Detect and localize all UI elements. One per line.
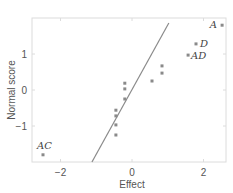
x-tick-label: 2 (201, 167, 207, 178)
data-point (161, 72, 164, 75)
normal-probability-plot: −2 0 2 Effect 1 0 −1 Normal score A D AD… (0, 0, 233, 193)
label-AD: AD (190, 50, 206, 61)
data-point (123, 82, 126, 85)
x-tick-label: −2 (55, 167, 67, 178)
data-point-AC (42, 153, 45, 156)
y-tick-label: 1 (21, 49, 27, 60)
label-D: D (199, 38, 208, 49)
y-tick-label: 0 (21, 85, 27, 96)
data-point-D (195, 42, 198, 45)
reference-line (92, 23, 169, 162)
x-axis: −2 0 2 Effect (55, 18, 207, 190)
y-axis-title: Normal score (6, 60, 17, 120)
data-point (123, 87, 126, 90)
data-point (114, 114, 117, 117)
label-AC: AC (36, 140, 52, 151)
data-point-AD (187, 54, 190, 57)
data-points (42, 24, 224, 157)
data-point (161, 64, 164, 67)
data-point (114, 134, 117, 137)
label-A: A (209, 19, 217, 30)
x-tick-label: 0 (129, 167, 135, 178)
data-point (123, 98, 126, 101)
data-point (114, 123, 117, 126)
point-labels: A D AD AC (36, 19, 217, 151)
x-axis-title: Effect (119, 179, 145, 190)
data-point (114, 109, 117, 112)
data-point (151, 80, 154, 83)
plot-frame (32, 18, 226, 162)
data-point-A (221, 24, 224, 27)
y-tick-label: −1 (16, 121, 28, 132)
